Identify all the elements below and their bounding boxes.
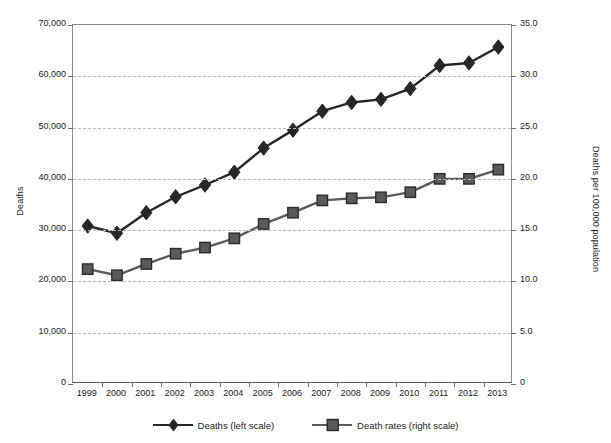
x-axis-tick: [337, 382, 338, 387]
data-point-marker: [258, 219, 268, 229]
series-plot: [73, 25, 513, 384]
y-axis-right-tick-label: 5.0: [520, 326, 560, 336]
data-point-marker: [405, 81, 416, 95]
data-point-marker: [170, 249, 180, 259]
data-point-marker: [229, 165, 240, 179]
y-axis-left-labels: 010,00020,00030,00040,00050,00060,00070,…: [20, 24, 66, 383]
y-axis-left-tick-label: 50,000: [20, 121, 66, 131]
data-point-marker: [199, 178, 210, 192]
y-axis-right-tick-label: 35.0: [520, 18, 560, 28]
y-axis-right-labels: 05.010.015.020.025.030.035.0: [520, 24, 560, 383]
y-axis-left-tick: [68, 76, 73, 77]
data-point-marker: [317, 195, 327, 205]
x-axis-tick: [366, 382, 367, 387]
y-axis-right-tick: [511, 333, 516, 334]
data-point-marker: [493, 164, 503, 174]
x-axis-tick: [161, 382, 162, 387]
data-point-marker: [375, 92, 386, 106]
y-axis-left-tick-label: 60,000: [20, 69, 66, 79]
x-axis-tick: [132, 382, 133, 387]
x-axis-tick: [220, 382, 221, 387]
data-point-marker: [111, 226, 122, 240]
y-axis-right-tick: [511, 281, 516, 282]
x-axis-tick: [454, 382, 455, 387]
data-point-marker: [317, 104, 328, 118]
data-point-marker: [376, 192, 386, 202]
y-axis-left-tick-label: 0: [20, 377, 66, 387]
y-axis-left-tick: [68, 384, 73, 385]
data-point-marker: [288, 208, 298, 218]
legend-item-2[interactable]: Death rates (right scale): [312, 418, 458, 432]
gridline: [73, 76, 511, 77]
y-axis-right-tick-label: 10.0: [520, 274, 560, 284]
y-axis-left-tick-label: 20,000: [20, 274, 66, 284]
y-axis-left-tick: [68, 179, 73, 180]
gridline: [73, 179, 511, 180]
data-point-marker: [463, 56, 474, 70]
y-axis-left-tick: [68, 333, 73, 334]
y-axis-right-tick: [511, 76, 516, 77]
plot-area: [72, 24, 512, 383]
x-axis-tick: [278, 382, 279, 387]
data-point-marker: [434, 58, 445, 72]
series-line-1: [88, 47, 499, 233]
x-axis-tick: [308, 382, 309, 387]
diamond-marker-icon: [153, 418, 193, 432]
data-point-marker: [82, 264, 92, 274]
legend-label: Deaths (left scale): [198, 420, 275, 431]
gridline: [73, 128, 511, 129]
chart-legend: Deaths (left scale)Death rates (right sc…: [0, 414, 611, 436]
y-axis-right-tick: [511, 128, 516, 129]
gridline: [73, 281, 511, 282]
legend-label: Death rates (right scale): [357, 420, 458, 431]
y-axis-right-tick-label: 15.0: [520, 223, 560, 233]
y-axis-left-tick: [68, 230, 73, 231]
y-axis-right-title: Deaths per 100,000 population: [591, 119, 601, 299]
data-point-marker: [258, 141, 269, 155]
data-point-marker: [141, 259, 151, 269]
y-axis-right-tick-label: 25.0: [520, 121, 560, 131]
y-axis-right-tick: [511, 179, 516, 180]
y-axis-right-tick: [511, 25, 516, 26]
data-point-marker: [346, 193, 356, 203]
x-axis-tick: [249, 382, 250, 387]
legend-symbol: [166, 418, 181, 436]
y-axis-left-tick: [68, 128, 73, 129]
y-axis-right-tick-label: 0: [520, 377, 560, 387]
data-point-marker: [493, 40, 504, 54]
data-point-marker: [229, 233, 239, 243]
data-point-marker: [112, 270, 122, 280]
y-axis-right-tick-label: 20.0: [520, 172, 560, 182]
y-axis-right-tick-label: 30.0: [520, 69, 560, 79]
y-axis-left-tick-label: 70,000: [20, 18, 66, 28]
y-axis-left-tick-label: 10,000: [20, 326, 66, 336]
legend-symbol: [325, 418, 340, 436]
chart-container: Deaths Deaths per 100,000 population 010…: [0, 0, 611, 443]
y-axis-left-tick: [68, 25, 73, 26]
x-axis-tick: [484, 382, 485, 387]
data-point-marker: [287, 123, 298, 137]
y-axis-left-tick: [68, 281, 73, 282]
gridline: [73, 333, 511, 334]
x-axis-tick-label: 2013: [477, 388, 517, 398]
y-axis-right-tick: [511, 384, 516, 385]
y-axis-left-tick-label: 30,000: [20, 223, 66, 233]
data-point-marker: [170, 190, 181, 204]
data-point-marker: [141, 206, 152, 220]
y-axis-left-tick-label: 40,000: [20, 172, 66, 182]
x-axis-labels: 1999200020012002200320042005200620072008…: [72, 388, 512, 404]
square-marker-icon: [312, 418, 352, 432]
data-point-marker: [200, 242, 210, 252]
x-axis-tick: [102, 382, 103, 387]
x-axis-tick: [425, 382, 426, 387]
gridline: [73, 230, 511, 231]
x-axis-tick: [396, 382, 397, 387]
data-point-marker: [346, 95, 357, 109]
legend-item-1[interactable]: Deaths (left scale): [153, 418, 275, 432]
y-axis-right-tick: [511, 230, 516, 231]
x-axis-tick: [190, 382, 191, 387]
data-point-marker: [405, 187, 415, 197]
